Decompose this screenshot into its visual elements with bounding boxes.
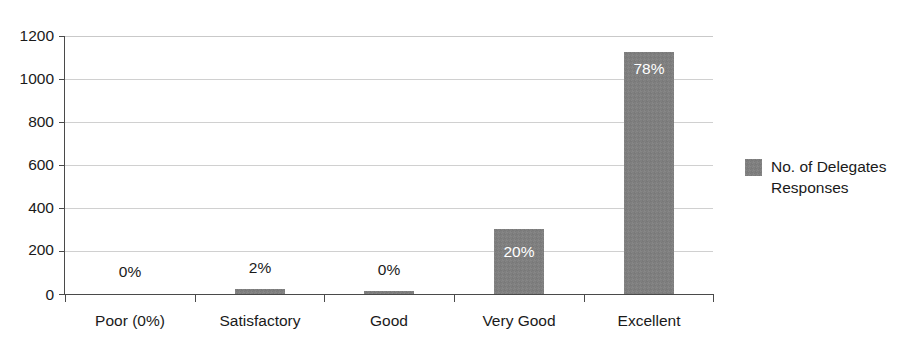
x-category-label-poor: Poor (0%)	[65, 312, 195, 330]
bar-label-satisfactory: 2%	[225, 260, 295, 276]
bar-excellent[interactable]	[624, 52, 674, 294]
gridline-1000	[65, 79, 713, 80]
plot-area: 0% 2% 0% 20% 78%	[65, 36, 713, 294]
y-tick-label-0: 0	[2, 287, 54, 303]
x-tick-mark-2	[324, 295, 325, 302]
x-axis-line	[65, 294, 714, 295]
x-tick-mark-4	[584, 295, 585, 302]
x-tick-mark-0	[65, 295, 66, 302]
y-tick-label-800: 800	[2, 114, 54, 130]
y-tick-label-200: 200	[2, 242, 54, 258]
legend-label-line-2: Responses	[771, 177, 886, 198]
gridline-400	[65, 208, 713, 209]
bar-good[interactable]	[364, 291, 414, 294]
x-category-label-satisfactory: Satisfactory	[195, 312, 325, 330]
gridline-600	[65, 165, 713, 166]
x-category-label-very-good: Very Good	[454, 312, 584, 330]
bar-label-excellent: 78%	[624, 61, 674, 77]
gridline-1200	[65, 36, 713, 37]
x-category-label-good: Good	[324, 312, 454, 330]
bar-label-good: 0%	[354, 262, 424, 278]
x-tick-mark-5	[713, 295, 714, 302]
x-tick-mark-3	[454, 295, 455, 302]
legend-label: No. of Delegates Responses	[771, 156, 886, 198]
bar-satisfactory[interactable]	[235, 289, 285, 294]
gridline-200	[65, 251, 713, 252]
bar-chart-figure: 1200 1000 800 600 400 200 0 0% 2% 0% 20%	[0, 0, 924, 348]
gridline-800	[65, 122, 713, 123]
x-category-label-excellent: Excellent	[584, 312, 714, 330]
legend-swatch-icon	[745, 159, 762, 176]
legend-label-line-1: No. of Delegates	[771, 156, 886, 177]
y-tick-label-1000: 1000	[2, 71, 54, 87]
chart-legend: No. of Delegates Responses	[745, 156, 886, 198]
y-axis-tick-labels: 1200 1000 800 600 400 200 0	[0, 0, 54, 348]
y-tick-label-1200: 1200	[2, 28, 54, 44]
bar-label-poor: 0%	[95, 264, 165, 280]
y-tick-label-400: 400	[2, 200, 54, 216]
x-tick-mark-1	[195, 295, 196, 302]
bar-label-very-good: 20%	[494, 244, 544, 260]
bar-very-good[interactable]	[494, 229, 544, 294]
y-tick-label-600: 600	[2, 157, 54, 173]
